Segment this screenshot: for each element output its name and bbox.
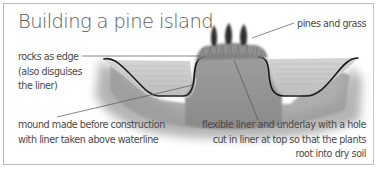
label-flexible-liner: flexible liner and underlay with a hole … [202, 118, 366, 162]
label-line: with liner taken above waterline [18, 133, 165, 148]
label-line: root into dry soil [202, 147, 366, 162]
leader-pines [252, 23, 294, 38]
pine-tree-3 [240, 24, 247, 45]
foliage-mass [196, 43, 268, 60]
diagram-title: Building a pine island [18, 10, 213, 33]
label-line: (also disguises [18, 65, 82, 80]
label-pines-and-grass: pines and grass [297, 17, 366, 32]
pine-trees [211, 23, 247, 46]
label-line: mound made before construction [18, 118, 165, 133]
label-rocks-as-edge: rocks as edge (also disguises the liner) [18, 50, 82, 94]
label-line: cut in liner at top so that the plants [202, 133, 366, 148]
pine-tree-2 [225, 23, 232, 44]
label-mound: mound made before construction with line… [18, 118, 165, 147]
label-line: pines and grass [297, 17, 366, 32]
label-line: rocks as edge [18, 50, 82, 65]
label-line: the liner) [18, 79, 82, 94]
label-line: flexible liner and underlay with a hole [202, 118, 366, 133]
